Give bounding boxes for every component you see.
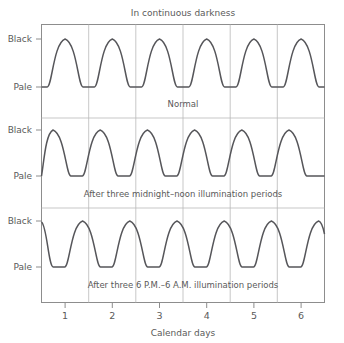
ytick-label-pale-2: Pale [13,171,32,181]
panel-caption-normal: Normal [168,99,199,109]
xtick-label-4: 4 [204,310,210,321]
gridlines [89,25,278,303]
chart-svg: In continuous darkness Black Pale Normal [0,0,344,343]
x-axis-label: Calendar days [151,328,216,338]
ytick-label-black-3: Black [8,216,33,226]
ytick-label-pale-1: Pale [13,82,32,92]
xtick-label-1: 1 [62,310,68,321]
xtick-label-2: 2 [109,310,115,321]
ytick-label-black-1: Black [8,34,33,44]
xtick-label-5: 5 [251,310,257,321]
chart-title: In continuous darkness [131,8,236,18]
xtick-label-3: 3 [156,310,162,321]
x-axis: 1 2 3 4 5 6 Calendar days [62,303,304,339]
xtick-label-6: 6 [298,310,304,321]
panel-caption-midnight-noon: After three midnight–noon illumination p… [84,189,283,199]
ytick-label-pale-3: Pale [13,262,32,272]
chart-figure: In continuous darkness Black Pale Normal [0,0,344,343]
ytick-label-black-2: Black [8,125,33,135]
panel-caption-6pm-6am: After three 6 P.M.–6 A.M. illumination p… [88,280,279,290]
